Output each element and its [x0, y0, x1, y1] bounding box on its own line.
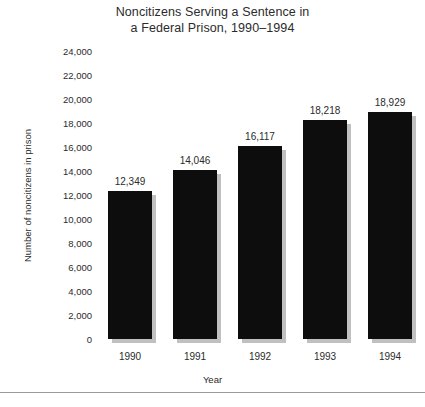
bar-group: 14,0461991	[173, 0, 217, 407]
bar[interactable]	[108, 191, 152, 339]
bar-value-label: 18,218	[289, 105, 361, 116]
y-axis-tick-label: 24,000	[30, 46, 92, 57]
bar[interactable]	[368, 112, 412, 339]
x-axis-tick-label: 1991	[159, 351, 231, 362]
y-axis-tick-label: 18,000	[30, 118, 92, 129]
bar-group: 18,2181993	[303, 0, 347, 407]
y-axis-tick-label: 12,000	[30, 190, 92, 201]
y-axis-tick-label: 2,000	[30, 310, 92, 321]
y-axis-tick-label: 8,000	[30, 238, 92, 249]
bar-value-label: 16,117	[224, 131, 296, 142]
bar-value-label: 18,929	[354, 97, 425, 108]
bar[interactable]	[173, 170, 217, 339]
bar-group: 18,9291994	[368, 0, 412, 407]
bar-group: 12,3491990	[108, 0, 152, 407]
bar-value-label: 14,046	[159, 155, 231, 166]
bar-group: 16,1171992	[238, 0, 282, 407]
x-axis-tick-label: 1992	[224, 351, 296, 362]
bar[interactable]	[303, 120, 347, 339]
bar-value-label: 12,349	[94, 176, 166, 187]
y-axis-tick-label: 16,000	[30, 142, 92, 153]
y-axis-tick-label: 4,000	[30, 286, 92, 297]
x-axis-title: Year	[0, 374, 425, 385]
bar[interactable]	[238, 146, 282, 339]
y-axis-tick-labels: 24,00022,00020,00018,00016,00014,00012,0…	[30, 0, 92, 407]
x-axis-tick-label: 1990	[94, 351, 166, 362]
y-axis-tick-label: 6,000	[30, 262, 92, 273]
y-axis-tick-label: 10,000	[30, 214, 92, 225]
y-axis-tick-label: 20,000	[30, 94, 92, 105]
x-axis-tick-label: 1994	[354, 351, 425, 362]
y-axis-tick-label: 0	[30, 334, 92, 345]
y-axis-tick-label: 22,000	[30, 70, 92, 81]
bottom-divider	[0, 392, 425, 393]
x-axis-tick-label: 1993	[289, 351, 361, 362]
y-axis-tick-label: 14,000	[30, 166, 92, 177]
bar-chart-plot-area: Number of noncitizens in prison 24,00022…	[0, 0, 425, 407]
